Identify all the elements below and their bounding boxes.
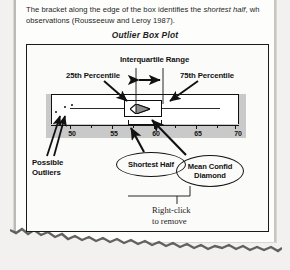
label-interquartile-range: Interquartile Range <box>120 55 186 64</box>
paragraph-line-1-italic: shortest half <box>203 5 245 14</box>
note-right-click-to-remove: Right-click to remove <box>152 205 191 226</box>
axis-tick-major <box>70 125 71 129</box>
axis-tick-label: 60 <box>152 130 159 137</box>
axis-tick-minor <box>91 125 92 128</box>
outlier-point <box>71 104 73 106</box>
axis-tick-major <box>112 125 113 129</box>
axis-tick-major <box>154 125 155 129</box>
right-click-line-2: to remove <box>152 216 191 227</box>
label-possible-outliers: Possible Outliers <box>32 158 63 178</box>
possible-outliers-line-1: Possible <box>32 158 63 167</box>
outlier-point <box>64 106 66 108</box>
label-25th-percentile: 25th Percentile <box>66 71 120 80</box>
right-click-line-1: Right-click <box>152 205 191 215</box>
axis-tick-minor <box>217 125 218 128</box>
paragraph-line-2: observations (Rousseeuw and Leroy 1987). <box>26 16 288 27</box>
callout-mean-confid-text: Mean Confid Diamond <box>188 162 232 180</box>
label-75th-percentile: 75th Percentile <box>180 71 234 80</box>
paragraph-line-1-part-b: , wh <box>245 5 259 14</box>
outlier-point <box>55 111 57 113</box>
axis-tick-major <box>196 125 197 129</box>
axis-tick-label: 65 <box>194 130 201 137</box>
axis-tick-minor <box>175 125 176 128</box>
axis-tick-minor <box>133 125 134 128</box>
callout-mean-confid-diamond: Mean Confid Diamond <box>176 155 244 187</box>
paragraph-line-1-part-a: The bracket along the edge of the box id… <box>26 5 203 14</box>
axis-line <box>51 125 239 126</box>
mean-confid-line-1: Mean Confid <box>188 162 232 171</box>
scanned-page-screenshot: The bracket along the edge of the box id… <box>0 0 290 270</box>
possible-outliers-line-2: Outliers <box>32 168 61 177</box>
mean-confid-line-2: Diamond <box>194 171 226 180</box>
axis-tick-label: 70 <box>234 130 241 137</box>
axis-tick-major <box>235 125 236 129</box>
axis-tick-label: 50 <box>68 130 75 137</box>
axis-tick-label: 55 <box>110 130 117 137</box>
mean-confidence-diamond-icon <box>130 104 150 114</box>
figure-title: Outlier Box Plot <box>0 30 290 40</box>
callout-shortest-half-text: Shortest Half <box>128 160 174 169</box>
x-axis: 50 55 60 65 70 <box>46 125 246 145</box>
body-paragraph: The bracket along the edge of the box id… <box>26 5 288 26</box>
